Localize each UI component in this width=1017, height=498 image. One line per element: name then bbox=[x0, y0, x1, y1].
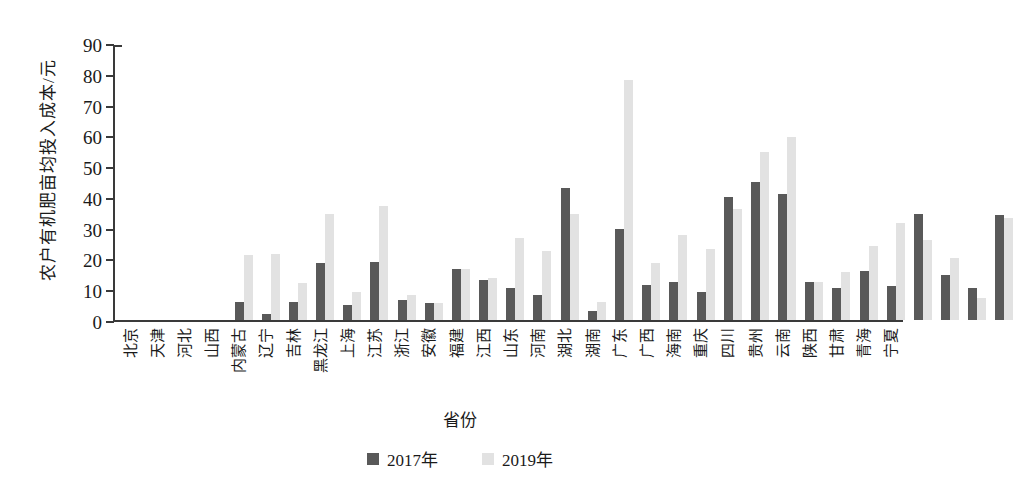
x-tick-label-cell: 山东 bbox=[495, 326, 522, 404]
bar bbox=[615, 229, 624, 320]
bar bbox=[488, 278, 497, 320]
y-tick-label: 70 bbox=[42, 98, 102, 117]
chart-legend: 2017年2019年 bbox=[0, 446, 920, 471]
legend-swatch-icon bbox=[482, 453, 494, 465]
bar bbox=[869, 246, 878, 320]
bar-group bbox=[475, 43, 502, 320]
x-tick-label: 安徽 bbox=[417, 328, 438, 358]
x-tick-label: 甘肃 bbox=[825, 328, 846, 358]
bar bbox=[506, 288, 515, 320]
x-tick-label: 云南 bbox=[770, 328, 791, 358]
bar bbox=[352, 292, 361, 320]
x-axis-title: 省份 bbox=[0, 406, 920, 431]
x-tick-label: 贵州 bbox=[743, 328, 764, 358]
bar bbox=[425, 303, 434, 320]
x-tick-label: 辽宁 bbox=[254, 328, 275, 358]
x-tick-label: 青海 bbox=[852, 328, 873, 358]
x-tick-label-cell: 浙江 bbox=[387, 326, 414, 404]
x-tick-label-cell: 广东 bbox=[604, 326, 631, 404]
bar-group bbox=[746, 43, 773, 320]
bar-group bbox=[502, 43, 529, 320]
x-tick-label-cell: 云南 bbox=[767, 326, 794, 404]
x-tick-label: 河南 bbox=[526, 328, 547, 358]
bar bbox=[778, 194, 787, 320]
bar-group bbox=[284, 43, 311, 320]
y-tick-label-wrap: 50 bbox=[36, 168, 102, 169]
bar-group bbox=[801, 43, 828, 320]
bar bbox=[751, 182, 760, 321]
legend-item: 2017年 bbox=[367, 446, 438, 471]
bar bbox=[271, 254, 280, 320]
y-tick-label-wrap: 70 bbox=[36, 107, 102, 108]
bar bbox=[941, 275, 950, 320]
x-tick-label-cell: 吉林 bbox=[278, 326, 305, 404]
x-tick-label-cell: 青海 bbox=[849, 326, 876, 404]
x-tick-label: 福建 bbox=[444, 328, 465, 358]
x-tick-label: 陕西 bbox=[797, 328, 818, 358]
x-tick-label-cell: 山西 bbox=[197, 326, 224, 404]
x-tick-label: 浙江 bbox=[390, 328, 411, 358]
bar bbox=[968, 288, 977, 320]
bar bbox=[570, 214, 579, 320]
bar bbox=[533, 295, 542, 320]
bar bbox=[452, 269, 461, 320]
bar bbox=[995, 215, 1004, 320]
x-tick-label-cell: 河北 bbox=[169, 326, 196, 404]
bar bbox=[515, 238, 524, 320]
y-tick-label-wrap: 60 bbox=[36, 137, 102, 138]
bar-group bbox=[665, 43, 692, 320]
x-tick-label-cell: 陕西 bbox=[794, 326, 821, 404]
bar-group bbox=[257, 43, 284, 320]
x-tick-label-cell: 重庆 bbox=[686, 326, 713, 404]
bar-group bbox=[991, 43, 1017, 320]
y-tick-label: 20 bbox=[42, 251, 102, 270]
x-tick-label: 上海 bbox=[335, 328, 356, 358]
x-tick-label: 宁夏 bbox=[879, 328, 900, 358]
y-tick-label: 10 bbox=[42, 282, 102, 301]
bar-group bbox=[420, 43, 447, 320]
x-tick-label-cell: 安徽 bbox=[414, 326, 441, 404]
y-tick-label: 80 bbox=[42, 67, 102, 86]
bar-group bbox=[529, 43, 556, 320]
bar-group bbox=[855, 43, 882, 320]
legend-swatch-icon bbox=[367, 453, 379, 465]
x-tick-label-cell: 上海 bbox=[332, 326, 359, 404]
x-tick-label-cell: 湖南 bbox=[577, 326, 604, 404]
bar bbox=[262, 314, 271, 320]
x-tick-label-cell: 黑龙江 bbox=[305, 326, 332, 404]
bar bbox=[860, 271, 869, 320]
x-tick-label-cell: 江苏 bbox=[360, 326, 387, 404]
x-tick-label: 重庆 bbox=[689, 328, 710, 358]
y-tick-label: 60 bbox=[42, 128, 102, 147]
bar-group bbox=[638, 43, 665, 320]
bar bbox=[289, 302, 298, 320]
x-tick-label: 广西 bbox=[634, 328, 655, 358]
x-tick-label: 吉林 bbox=[281, 328, 302, 358]
bar bbox=[235, 302, 244, 320]
bar bbox=[669, 282, 678, 320]
x-tick-label-cell: 甘肃 bbox=[821, 326, 848, 404]
bar bbox=[479, 280, 488, 320]
legend-label: 2019年 bbox=[502, 446, 553, 471]
x-tick-label: 江西 bbox=[471, 328, 492, 358]
y-tick-label: 90 bbox=[42, 36, 102, 55]
bar bbox=[316, 263, 325, 320]
bar bbox=[914, 214, 923, 320]
bar bbox=[651, 263, 660, 320]
x-tick-label: 江苏 bbox=[363, 328, 384, 358]
bar bbox=[706, 249, 715, 320]
y-tick-label-wrap: 40 bbox=[36, 199, 102, 200]
bar bbox=[370, 262, 379, 320]
x-tick-label-cell: 北京 bbox=[115, 326, 142, 404]
y-tick-label: 50 bbox=[42, 159, 102, 178]
bar bbox=[542, 251, 551, 320]
bar bbox=[1004, 218, 1013, 320]
y-tick-label-wrap: 30 bbox=[36, 230, 102, 231]
bar bbox=[597, 302, 606, 320]
bar-group bbox=[828, 43, 855, 320]
x-tick-label: 山西 bbox=[200, 328, 221, 358]
bar bbox=[678, 235, 687, 320]
bar-group bbox=[909, 43, 936, 320]
bar-group bbox=[393, 43, 420, 320]
